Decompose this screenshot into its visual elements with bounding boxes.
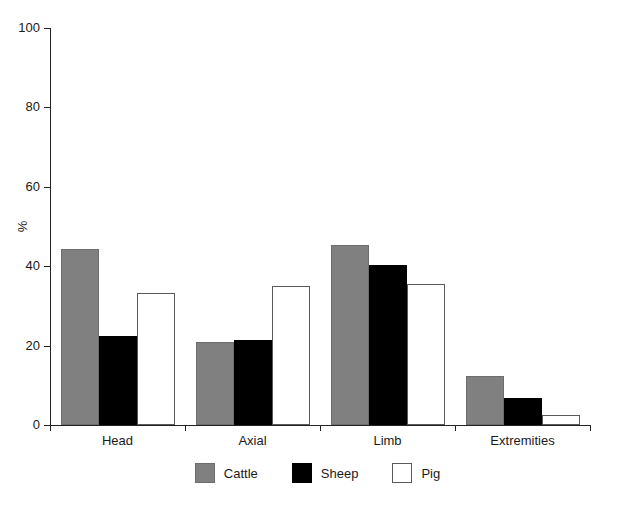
bar-cattle-extremities [466,376,504,425]
x-group-label: Head [50,433,185,448]
x-tick-mark [50,425,51,431]
x-tick-mark [185,425,186,431]
legend-label: Cattle [224,467,258,480]
sheep-swatch [292,463,312,483]
bar-sheep-extremities [504,398,542,425]
bar-pig-head [137,293,175,425]
chart-legend: CattleSheepPig [0,463,635,483]
legend-item-sheep[interactable]: Sheep [292,463,359,483]
bar-cattle-axial [196,342,234,425]
x-group-label: Axial [185,433,320,448]
legend-label: Sheep [321,467,359,480]
y-tick-label: 40 [0,259,40,272]
y-tick-label: 20 [0,339,40,352]
bar-cattle-limb [331,245,369,425]
legend-item-cattle[interactable]: Cattle [195,463,258,483]
bar-sheep-axial [234,340,272,425]
bar-sheep-head [99,336,137,425]
bar-pig-extremities [542,415,580,425]
x-tick-mark [455,425,456,431]
bar-pig-axial [272,286,310,425]
y-axis-title-holder: % [8,210,28,250]
y-axis-title: % [16,207,29,247]
x-group-label: Extremities [455,433,590,448]
y-tick-label: 80 [0,100,40,113]
bar-pig-limb [407,284,445,425]
x-tick-mark [320,425,321,431]
pig-swatch [392,463,412,483]
bar-sheep-limb [369,265,407,425]
legend-label: Pig [421,467,440,480]
legend-item-pig[interactable]: Pig [392,463,440,483]
x-tick-mark [590,425,591,431]
y-tick-label: 60 [0,180,40,193]
x-group-label: Limb [320,433,455,448]
bar-chart: % 100806040200 HeadAxialLimbExtremities … [0,0,635,512]
plot-area [50,28,590,425]
cattle-swatch [195,463,215,483]
bar-cattle-head [61,249,99,425]
y-tick-label: 100 [0,21,40,34]
y-tick-label: 0 [0,418,40,431]
